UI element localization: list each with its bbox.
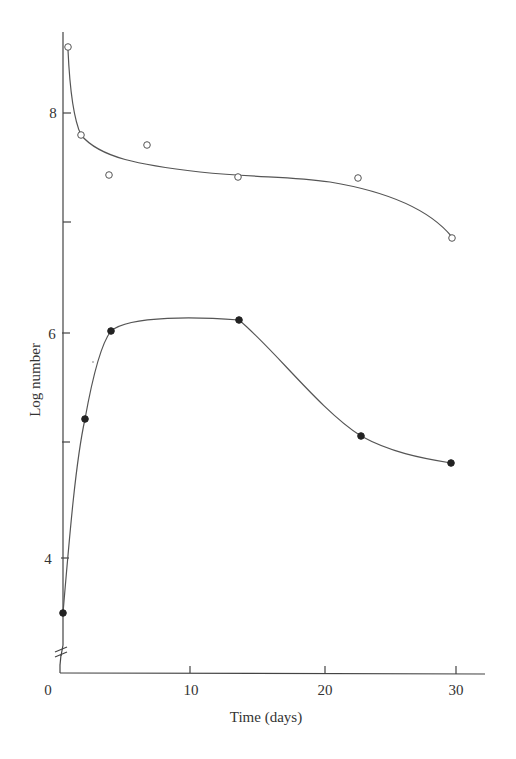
data-point — [448, 460, 455, 467]
x-tick-10: 10 — [184, 682, 199, 698]
data-point — [236, 317, 243, 324]
y-axis — [55, 32, 71, 673]
y-tick-4: 4 — [44, 551, 52, 567]
data-point — [82, 416, 89, 423]
data-point — [144, 142, 151, 149]
speck — [92, 361, 94, 363]
x-axis-label: Time (days) — [230, 709, 302, 726]
filled-series-markers — [60, 317, 455, 617]
data-point — [235, 174, 242, 181]
data-point — [65, 44, 72, 51]
data-point — [358, 433, 365, 440]
data-point — [355, 175, 362, 182]
x-axis — [60, 666, 485, 674]
data-point — [60, 610, 67, 617]
chart: 8 6 4 0 10 20 30 Time (days) Log number — [0, 0, 516, 759]
y-axis-label: Log number — [27, 343, 43, 417]
data-point — [106, 172, 113, 179]
x-tick-30: 30 — [449, 682, 464, 698]
data-point — [449, 235, 456, 242]
data-point — [108, 328, 115, 335]
y-tick-8: 8 — [49, 105, 57, 121]
y-tick-6: 6 — [48, 326, 56, 342]
data-point — [78, 132, 85, 139]
open-series-curve — [68, 50, 452, 237]
x-tick-0: 0 — [44, 682, 52, 698]
open-series-markers — [65, 44, 456, 242]
filled-series-curve — [63, 318, 451, 613]
x-tick-20: 20 — [318, 682, 333, 698]
